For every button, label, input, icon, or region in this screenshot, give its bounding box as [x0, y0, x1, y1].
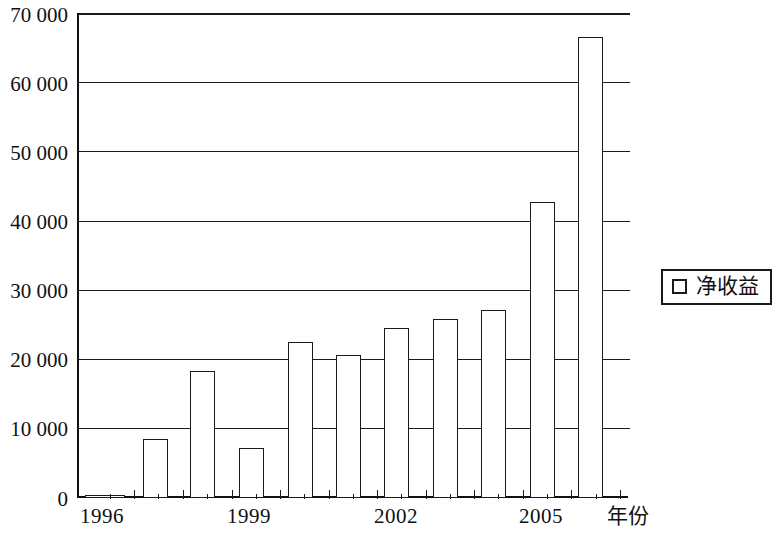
bar-2004 [481, 310, 506, 498]
x-axis-tick [256, 494, 257, 499]
y-axis-tick-label: 20 000 [0, 350, 68, 371]
x-axis-tick [547, 494, 548, 499]
bar-2002 [384, 328, 409, 498]
y-axis-tick-label: 10 000 [0, 419, 68, 440]
bar-2005 [530, 202, 555, 498]
x-axis-tick [329, 490, 330, 499]
x-axis-tick [571, 490, 572, 499]
x-axis-tick [377, 490, 378, 499]
x-axis-tick [207, 494, 208, 499]
bar-1998 [190, 371, 215, 498]
x-axis-tick-label-2005: 2005 [519, 506, 563, 527]
x-axis-tick [401, 494, 402, 499]
x-axis-tick [474, 490, 475, 499]
bar-1999 [239, 448, 264, 498]
x-axis-tick [498, 494, 499, 499]
x-axis-tick [304, 494, 305, 499]
y-axis-tick-label: 40 000 [0, 212, 68, 233]
y-axis-tick-label: 30 000 [0, 281, 68, 302]
x-axis-tick-label-1996: 1996 [80, 506, 124, 527]
x-axis-tick [158, 494, 159, 499]
x-axis-tick [523, 490, 524, 499]
bar-1996 [85, 495, 125, 498]
y-axis-tick-label: 50 000 [0, 143, 68, 164]
bar-2003 [433, 319, 458, 498]
x-axis-tick [280, 490, 281, 499]
bars-layer [77, 13, 628, 498]
open-square-icon [672, 279, 687, 294]
x-axis-tick [620, 490, 621, 499]
x-axis-tick [183, 490, 184, 499]
bar-2001 [336, 355, 361, 498]
y-axis-tick-label: 70 000 [0, 5, 68, 26]
x-axis-tick [426, 490, 427, 499]
bar-chart: 70 000 60 000 50 000 40 000 30 000 20 00… [0, 0, 782, 538]
x-axis-tick [110, 494, 111, 499]
bar-2000 [288, 342, 313, 498]
x-axis-tick [134, 490, 135, 499]
x-axis-tick [596, 494, 597, 499]
y-axis-tick-label: 0 [0, 489, 68, 510]
x-axis-tick [450, 494, 451, 499]
legend: 净收益 [661, 269, 772, 305]
x-axis-tick [232, 490, 233, 499]
bar-2006 [578, 37, 603, 498]
x-axis-tick-label-1999: 1999 [227, 506, 271, 527]
y-axis-tick-label: 60 000 [0, 74, 68, 95]
bar-1997 [143, 439, 168, 498]
legend-item-label: 净收益 [696, 276, 759, 297]
x-axis-tick-label-2002: 2002 [374, 506, 418, 527]
x-axis-tick [353, 494, 354, 499]
x-axis-title: 年份 [607, 506, 649, 527]
